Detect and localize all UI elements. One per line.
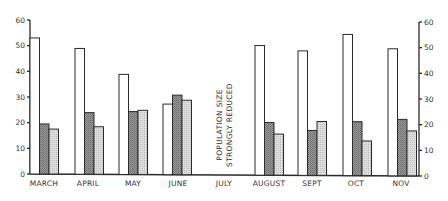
bar — [30, 38, 40, 174]
y-tick-label: 20 — [15, 118, 25, 127]
x-category-label: MAY — [125, 179, 141, 188]
x-category-label: NOV — [392, 179, 410, 188]
y-tick-label: 50 — [15, 41, 25, 50]
y-tick-label: 60 — [424, 18, 434, 27]
bar — [265, 123, 275, 176]
bar-group-june — [163, 95, 192, 175]
y-tick-label: 20 — [424, 120, 434, 129]
y-tick-label: 0 — [424, 172, 429, 181]
x-category-label: APRIL — [77, 179, 100, 188]
bar — [407, 131, 417, 176]
bar — [274, 134, 284, 175]
bar — [163, 104, 173, 175]
category-labels: MARCHAPRILMAYJUNEJULYAUGUSTSEPTOCTNOV — [30, 179, 410, 188]
bar-group-sept — [298, 51, 327, 175]
y-tick-label: 50 — [424, 43, 434, 52]
bar — [255, 46, 265, 176]
bar-group-oct — [343, 34, 372, 175]
x-category-label: JUNE — [168, 179, 188, 188]
y-tick-label: 40 — [15, 67, 25, 76]
y-tick-label: 30 — [424, 95, 434, 104]
annotation-line: POPULATION SIZE — [215, 89, 224, 160]
bar — [94, 127, 104, 174]
bar-group-march — [30, 38, 59, 174]
annotation-line: STRONGLY REDUCED — [225, 83, 234, 167]
bar — [298, 51, 308, 175]
y-tick-label: 0 — [20, 170, 25, 179]
bar — [173, 95, 183, 175]
bar-group-april — [75, 48, 104, 174]
bar — [317, 121, 327, 175]
bar — [182, 100, 192, 174]
bar — [343, 34, 353, 175]
right-y-axis: 0102030405060 — [419, 18, 434, 181]
bar — [308, 130, 318, 175]
bar — [353, 122, 363, 176]
y-tick-label: 10 — [15, 144, 25, 153]
bar — [49, 129, 59, 174]
bar — [119, 74, 129, 174]
bar — [138, 110, 148, 174]
bar — [362, 141, 372, 176]
bar — [388, 49, 398, 176]
x-category-label: AUGUST — [253, 179, 286, 188]
bar — [40, 124, 50, 174]
x-category-label: SEPT — [302, 179, 322, 188]
x-category-label: OCT — [348, 179, 365, 188]
x-category-label: JULY — [215, 179, 232, 188]
bar-chart: 0102030405060 0102030405060 MARCHAPRILMA… — [0, 0, 448, 201]
july-annotation: POPULATION SIZESTRONGLY REDUCED — [215, 83, 234, 167]
bar — [85, 113, 95, 175]
left-y-axis: 0102030405060 — [15, 16, 30, 179]
y-tick-label: 30 — [15, 93, 25, 102]
bar-group-august — [255, 46, 284, 176]
bar-group-nov — [388, 49, 417, 176]
y-tick-label: 40 — [424, 69, 434, 78]
y-tick-label: 10 — [424, 146, 434, 155]
bar — [398, 119, 408, 175]
x-category-label: MARCH — [30, 179, 58, 188]
bar — [75, 48, 85, 174]
y-tick-label: 60 — [15, 16, 25, 25]
bar-group-may — [119, 74, 148, 174]
bar — [129, 112, 139, 175]
